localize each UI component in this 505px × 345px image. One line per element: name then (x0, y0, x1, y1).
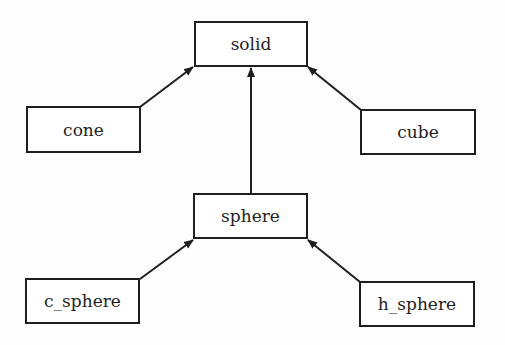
node-sphere: sphere (193, 193, 308, 239)
edge-cube-to-solid (308, 67, 361, 110)
node-cube: cube (360, 109, 476, 155)
node-h-sphere-label: h_sphere (378, 294, 456, 314)
node-c-sphere: c_sphere (25, 278, 140, 324)
node-solid-label: solid (231, 34, 272, 54)
diagram-canvas: solid cone cube sphere c_sphere h_sphere (0, 0, 505, 345)
edge-cone-to-solid (140, 67, 193, 107)
node-cube-label: cube (397, 122, 438, 142)
node-cone-label: cone (63, 120, 104, 140)
node-h-sphere: h_sphere (359, 281, 475, 327)
edge-h-sphere-to-sphere (308, 240, 360, 282)
node-solid: solid (194, 21, 308, 67)
node-sphere-label: sphere (221, 206, 280, 226)
edge-c-sphere-to-sphere (140, 240, 193, 279)
node-cone: cone (26, 106, 141, 153)
node-c-sphere-label: c_sphere (44, 291, 121, 311)
